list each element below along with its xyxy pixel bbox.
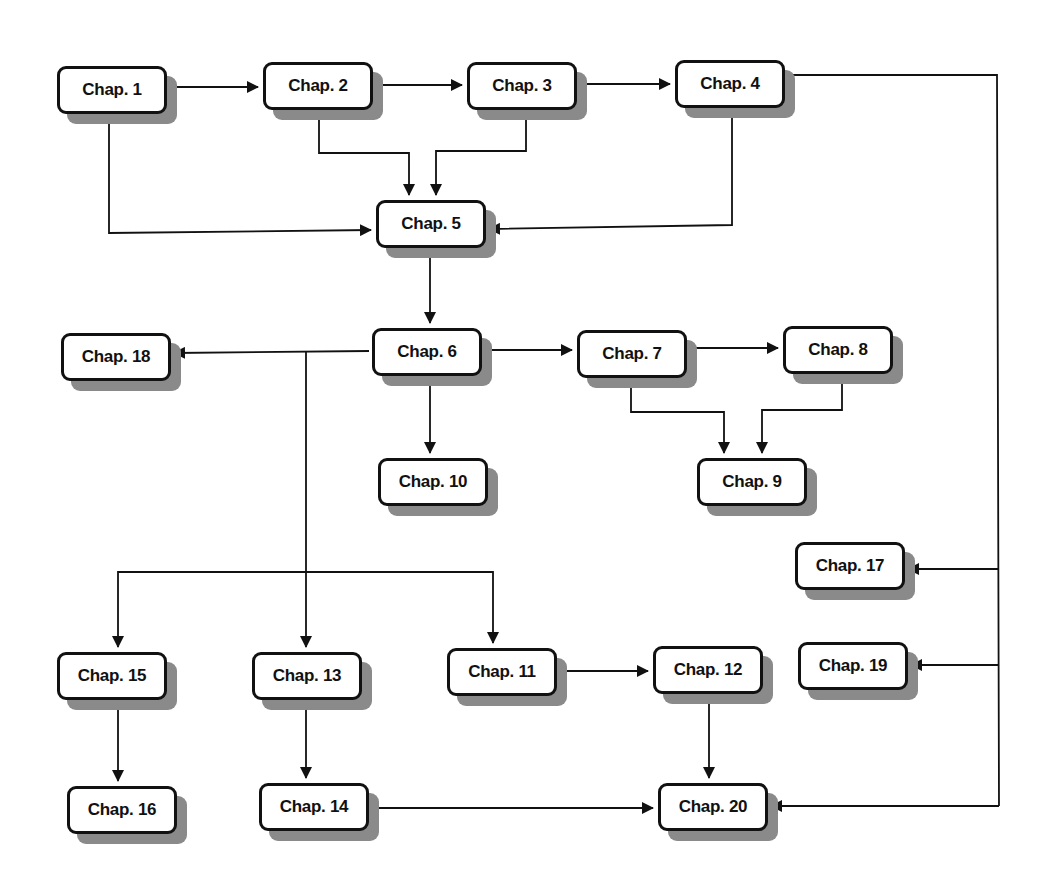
node-chapter-18: Chap. 18 bbox=[61, 333, 171, 381]
edge-ch6-ch11 bbox=[306, 572, 493, 643]
node-label: Chap. 19 bbox=[819, 656, 887, 676]
node-chapter-1: Chap. 1 bbox=[57, 66, 167, 114]
edge-ch6-ch15 bbox=[118, 572, 306, 647]
node-box: Chap. 5 bbox=[376, 200, 486, 248]
node-label: Chap. 15 bbox=[78, 666, 146, 686]
edge-ch2-ch5 bbox=[319, 113, 409, 195]
node-box: Chap. 14 bbox=[259, 783, 369, 831]
node-chapter-19: Chap. 19 bbox=[798, 642, 908, 690]
node-label: Chap. 8 bbox=[808, 340, 867, 360]
node-chapter-17: Chap. 17 bbox=[795, 542, 905, 590]
edge-ch3-ch5 bbox=[436, 113, 526, 195]
node-label: Chap. 6 bbox=[397, 342, 456, 362]
edge-ch7-ch9 bbox=[631, 381, 724, 453]
node-chapter-9: Chap. 9 bbox=[697, 458, 807, 506]
node-chapter-7: Chap. 7 bbox=[577, 330, 687, 378]
node-label: Chap. 2 bbox=[288, 76, 347, 96]
node-chapter-3: Chap. 3 bbox=[467, 62, 577, 110]
node-box: Chap. 15 bbox=[57, 652, 167, 700]
node-box: Chap. 11 bbox=[447, 648, 557, 696]
node-label: Chap. 1 bbox=[82, 80, 141, 100]
node-label: Chap. 13 bbox=[273, 666, 341, 686]
node-chapter-6: Chap. 6 bbox=[372, 328, 482, 376]
node-label: Chap. 7 bbox=[602, 344, 661, 364]
node-box: Chap. 13 bbox=[252, 652, 362, 700]
node-box: Chap. 12 bbox=[653, 646, 763, 694]
edge-ch8-ch9 bbox=[762, 377, 842, 453]
edge-ch6-ch18 bbox=[174, 351, 369, 353]
node-label: Chap. 16 bbox=[88, 800, 156, 820]
node-label: Chap. 11 bbox=[468, 662, 536, 682]
node-box: Chap. 1 bbox=[57, 66, 167, 114]
node-box: Chap. 7 bbox=[577, 330, 687, 378]
chapter-dependency-diagram: Chap. 1 Chap. 2 Chap. 3 Chap. 4 Chap. 5 … bbox=[0, 0, 1059, 882]
edge-ch1-ch5 bbox=[109, 117, 371, 233]
node-chapter-4: Chap. 4 bbox=[675, 60, 785, 108]
node-label: Chap. 9 bbox=[722, 472, 781, 492]
node-label: Chap. 20 bbox=[679, 797, 747, 817]
node-box: Chap. 19 bbox=[798, 642, 908, 690]
node-chapter-12: Chap. 12 bbox=[653, 646, 763, 694]
node-chapter-13: Chap. 13 bbox=[252, 652, 362, 700]
node-box: Chap. 18 bbox=[61, 333, 171, 381]
node-chapter-5: Chap. 5 bbox=[376, 200, 486, 248]
node-chapter-11: Chap. 11 bbox=[447, 648, 557, 696]
node-chapter-10: Chap. 10 bbox=[378, 458, 488, 506]
node-box: Chap. 9 bbox=[697, 458, 807, 506]
node-chapter-16: Chap. 16 bbox=[67, 786, 177, 834]
node-label: Chap. 14 bbox=[280, 797, 348, 817]
node-label: Chap. 18 bbox=[82, 347, 150, 367]
node-box: Chap. 6 bbox=[372, 328, 482, 376]
node-chapter-20: Chap. 20 bbox=[658, 783, 768, 831]
node-box: Chap. 3 bbox=[467, 62, 577, 110]
node-box: Chap. 20 bbox=[658, 783, 768, 831]
node-box: Chap. 8 bbox=[783, 326, 893, 374]
node-box: Chap. 4 bbox=[675, 60, 785, 108]
node-chapter-2: Chap. 2 bbox=[263, 62, 373, 110]
node-label: Chap. 17 bbox=[816, 556, 884, 576]
node-label: Chap. 4 bbox=[700, 74, 759, 94]
connector-layer bbox=[0, 0, 1059, 882]
node-box: Chap. 10 bbox=[378, 458, 488, 506]
node-box: Chap. 2 bbox=[263, 62, 373, 110]
node-label: Chap. 10 bbox=[399, 472, 467, 492]
node-chapter-8: Chap. 8 bbox=[783, 326, 893, 374]
node-label: Chap. 5 bbox=[401, 214, 460, 234]
node-box: Chap. 16 bbox=[67, 786, 177, 834]
node-chapter-14: Chap. 14 bbox=[259, 783, 369, 831]
node-label: Chap. 12 bbox=[674, 660, 742, 680]
node-label: Chap. 3 bbox=[492, 76, 551, 96]
node-box: Chap. 17 bbox=[795, 542, 905, 590]
node-chapter-15: Chap. 15 bbox=[57, 652, 167, 700]
